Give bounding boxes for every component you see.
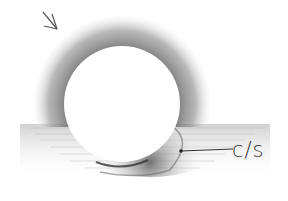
sphere-sketch bbox=[0, 0, 288, 201]
leader-dot bbox=[179, 149, 183, 153]
cast-shadow-label: c/s bbox=[232, 138, 265, 162]
sphere bbox=[64, 46, 180, 162]
arrow-down-right-icon bbox=[43, 12, 57, 29]
